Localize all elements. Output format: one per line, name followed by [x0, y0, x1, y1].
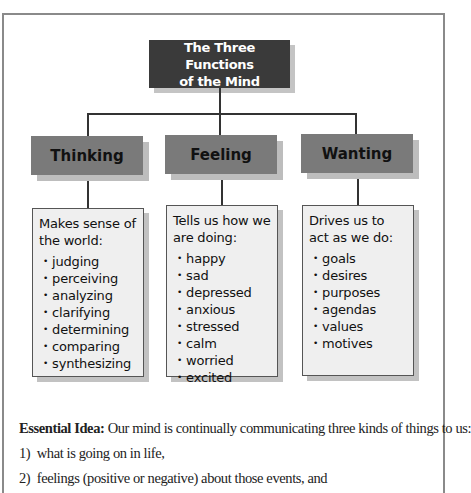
essential-idea-text: Our mind is continually communicating th…	[104, 420, 471, 436]
list-item: desires	[313, 267, 407, 284]
list-item: analyzing	[43, 287, 137, 304]
thinking-description: Makes sense of the world:	[39, 215, 137, 249]
list-item: judging	[43, 253, 137, 270]
list-item: happy	[177, 250, 271, 267]
list-item: purposes	[313, 284, 407, 301]
list-item: comparing	[43, 338, 137, 355]
connector-thinking-up	[87, 113, 89, 137]
list-item: motives	[313, 335, 407, 352]
list-item: anxious	[177, 301, 271, 318]
wanting-content-box: Drives us to act as we do: goals desires…	[302, 205, 414, 376]
thinking-content-box: Makes sense of the world: judging percei…	[32, 208, 144, 377]
feeling-content-box: Tells us how we are doing: happy sad dep…	[166, 205, 278, 377]
heading-thinking-label: Thinking	[50, 147, 123, 165]
diagram-title-box: The Three Functions of the Mind	[149, 40, 290, 88]
heading-feeling: Feeling	[165, 135, 277, 174]
list-item: perceiving	[43, 270, 137, 287]
list-item: goals	[313, 250, 407, 267]
feeling-description: Tells us how we are doing:	[173, 212, 271, 246]
list-item: depressed	[177, 284, 271, 301]
wanting-description: Drives us to act as we do:	[309, 212, 407, 246]
list-item: stressed	[177, 318, 271, 335]
heading-wanting: Wanting	[301, 134, 413, 173]
connector-title-down	[219, 88, 221, 114]
connector-horizontal	[87, 113, 356, 115]
list-item: clarifying	[43, 304, 137, 321]
essential-point-1: 1) what is going on in life,	[19, 443, 439, 468]
feeling-list: happy sad depressed anxious stressed cal…	[173, 250, 271, 386]
list-item: synthesizing	[43, 355, 137, 372]
essential-idea-line: Essential Idea: Our mind is continually …	[19, 418, 439, 443]
title-line-2: of the Mind	[149, 73, 290, 90]
list-item: worried	[177, 352, 271, 369]
essential-point-2: 2) feelings (positive or negative) about…	[19, 468, 439, 493]
connector-wanting-down	[357, 173, 359, 205]
list-item: calm	[177, 335, 271, 352]
essential-idea-label: Essential Idea:	[19, 420, 104, 436]
thinking-list: judging perceiving analyzing clarifying …	[39, 253, 137, 372]
list-item: excited	[177, 369, 271, 386]
list-item: agendas	[313, 301, 407, 318]
connector-wanting-up	[355, 113, 357, 135]
heading-wanting-label: Wanting	[322, 145, 393, 163]
connector-feeling-down	[221, 174, 223, 205]
list-item: determining	[43, 321, 137, 338]
list-item: values	[313, 318, 407, 335]
essential-idea: Essential Idea: Our mind is continually …	[19, 418, 439, 493]
list-item: sad	[177, 267, 271, 284]
heading-thinking: Thinking	[31, 136, 143, 175]
title-line-1: The Three Functions	[149, 39, 290, 73]
wanting-list: goals desires purposes agendas values mo…	[309, 250, 407, 352]
connector-feeling-up	[219, 113, 221, 136]
connector-thinking-down	[87, 175, 89, 208]
heading-feeling-label: Feeling	[190, 146, 252, 164]
